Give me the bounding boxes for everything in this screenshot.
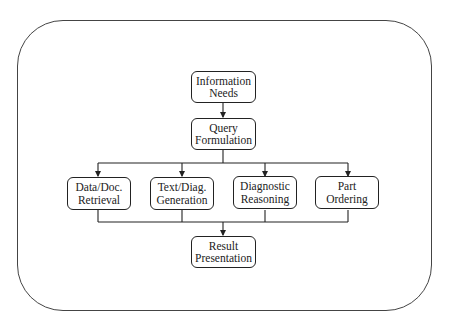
node-text-diag-generation: Text/Diag. Generation [150, 177, 214, 210]
node-label: Query Formulation [195, 122, 252, 147]
node-label: Result Presentation [195, 240, 252, 265]
node-diagnostic-reasoning: Diagnostic Reasoning [233, 176, 297, 209]
node-data-doc-retrieval: Data/Doc. Retrieval [67, 177, 131, 210]
connector-lines [0, 0, 450, 330]
node-query-formulation: Query Formulation [191, 118, 256, 150]
node-part-ordering: Part Ordering [315, 176, 379, 209]
node-result-presentation: Result Presentation [191, 236, 256, 268]
node-label: Diagnostic Reasoning [240, 180, 290, 205]
node-information-needs: Information Needs [191, 71, 256, 103]
node-label: Information Needs [196, 75, 251, 100]
node-label: Part Ordering [326, 180, 368, 205]
node-label: Text/Diag. Generation [156, 181, 207, 206]
node-label: Data/Doc. Retrieval [76, 181, 123, 206]
